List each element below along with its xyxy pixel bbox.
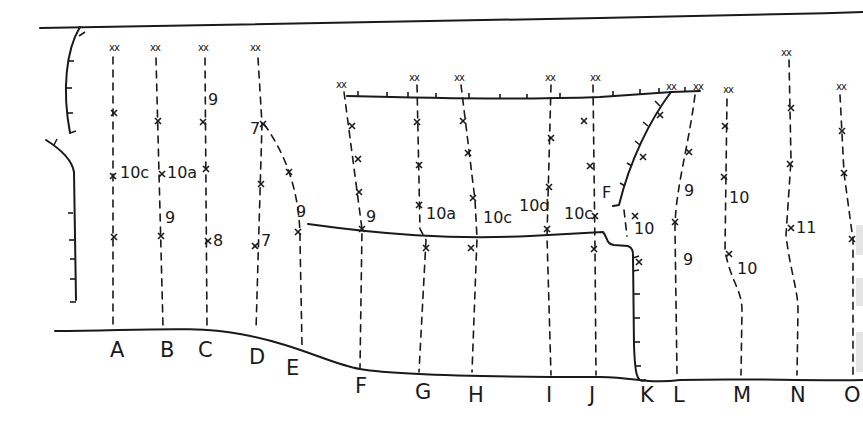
grade-label: 10: [737, 259, 757, 278]
grade-label: 7: [261, 231, 271, 250]
left-wall-hatching: [54, 139, 76, 302]
route-label-e: E: [286, 356, 299, 380]
grade-label: F: [602, 183, 611, 202]
anchor-icon: xx: [590, 72, 601, 83]
scan-smudge: [856, 225, 863, 255]
bolt-icon: [581, 118, 587, 124]
route-h-line: [461, 85, 477, 372]
grade-label: 9: [165, 208, 175, 227]
anchor-icon: xx: [150, 42, 161, 53]
anchor-icon: xx: [454, 72, 465, 83]
grade-label: 9: [683, 250, 693, 269]
route-b-line: [156, 58, 163, 326]
scan-smudge: [856, 332, 863, 372]
route-o-line: [840, 95, 853, 375]
upper-roof-ledge: [347, 91, 700, 99]
grade-label: 9: [208, 90, 218, 109]
grade-label: 10: [729, 188, 749, 207]
grade-label: 10a: [426, 204, 456, 223]
bolt-icon: [587, 163, 593, 169]
left-wall: [46, 140, 76, 300]
bolt-icon: [460, 118, 466, 124]
bolt-icon: [414, 119, 420, 125]
grade-label: 10a: [167, 163, 197, 182]
bolt-icon: [686, 149, 692, 155]
route-label-k: K: [640, 383, 655, 407]
route-c-line: [205, 58, 207, 326]
grade-label: 10c: [483, 208, 512, 227]
bolt-icon: [470, 195, 476, 201]
bolt-icon: [465, 150, 471, 156]
route-k-line: [624, 210, 627, 236]
anchor-icon: xx: [693, 81, 704, 92]
anchor-icon: xx: [836, 81, 847, 92]
cliff-top-edge: [40, 12, 863, 28]
anchor-icon: xx: [198, 42, 209, 53]
route-label-i: I: [546, 383, 552, 407]
bolt-icon: [111, 234, 117, 240]
route-l-line: [675, 95, 695, 375]
bolt-icon: [260, 121, 266, 127]
climbing-topo-diagram: xxxxxxxxxxxxxxxxxxxxxxxxxxxx 10c10a99877…: [0, 0, 863, 438]
route-label-o: O: [844, 383, 861, 407]
grade-label: 9: [684, 181, 694, 200]
route-letter-labels: ABCDEFGHIJKLMNO: [110, 338, 861, 407]
route-label-c: C: [198, 338, 213, 362]
bolt-icon: [636, 259, 642, 265]
anchor-icon: xx: [336, 79, 347, 90]
bolt-icon: [657, 112, 663, 118]
bolt-icon: [355, 156, 361, 162]
scan-smudge: [856, 278, 863, 306]
bolt-icon: [295, 229, 301, 235]
bolt-icon: [788, 105, 794, 111]
bolt-icon: [252, 243, 258, 249]
bolt-icon: [726, 251, 732, 257]
bolt-icon: [159, 171, 165, 177]
route-label-f: F: [355, 374, 367, 398]
grade-label: 10: [634, 219, 654, 238]
grade-label: 10c: [120, 163, 149, 182]
grade-label: 10c: [564, 204, 593, 223]
left-overhang-roof: [66, 27, 80, 133]
bolt-icon: [640, 154, 646, 160]
route-label-n: N: [790, 383, 806, 407]
grade-label: 11: [796, 218, 816, 237]
route-label-d: D: [249, 345, 265, 369]
bolt-icon: [839, 128, 845, 134]
grade-label: 10d: [519, 196, 550, 215]
left-overhang-hatching: [66, 32, 85, 133]
anchor-icon: xx: [666, 81, 677, 92]
anchor-icon: xx: [723, 84, 734, 95]
route-label-m: M: [733, 383, 751, 407]
anchor-icon: xx: [781, 47, 792, 58]
bolt-icon: [468, 245, 474, 251]
route-m-line: [725, 99, 742, 375]
bolt-icon: [111, 110, 117, 116]
anchor-icon: xx: [545, 72, 556, 83]
grade-label: 8: [213, 231, 223, 250]
anchor-icon: xx: [250, 42, 261, 53]
route-d-line: [256, 58, 262, 330]
anchor-markers: xxxxxxxxxxxxxxxxxxxxxxxxxxxx: [109, 42, 847, 95]
bolt-icon: [200, 119, 206, 125]
route-label-h: H: [468, 383, 484, 407]
route-g-line: [417, 85, 426, 372]
route-label-a: A: [110, 338, 125, 362]
route-label-j: J: [587, 383, 595, 407]
route-j-line: [593, 85, 596, 375]
diagonal-corner: [613, 92, 671, 206]
grade-label: 9: [366, 207, 376, 226]
route-label-g: G: [415, 380, 431, 404]
bolt-icon: [349, 123, 355, 129]
bolt-icon: [591, 246, 597, 252]
grade-label: 7: [250, 119, 260, 138]
route-label-l: L: [673, 383, 685, 407]
anchor-icon: xx: [409, 72, 420, 83]
route-label-b: B: [160, 338, 174, 362]
bolt-icon: [356, 189, 362, 195]
anchor-icon: xx: [109, 42, 120, 53]
bolt-icon: [788, 225, 794, 231]
grade-label: 9: [296, 202, 306, 221]
